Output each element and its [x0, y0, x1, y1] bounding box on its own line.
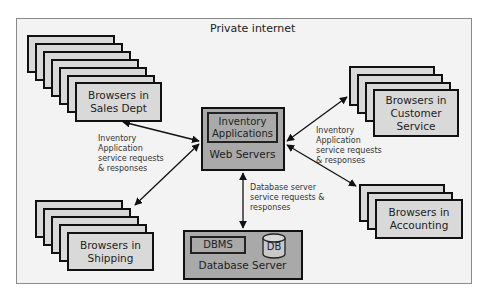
annotation-left: Inventory Application service requests &…: [98, 134, 164, 174]
connection-arrows: [0, 0, 489, 299]
annotation-right: Inventory Application service requests &…: [316, 126, 382, 166]
annotation-database: Database server service requests & respo…: [250, 183, 325, 213]
